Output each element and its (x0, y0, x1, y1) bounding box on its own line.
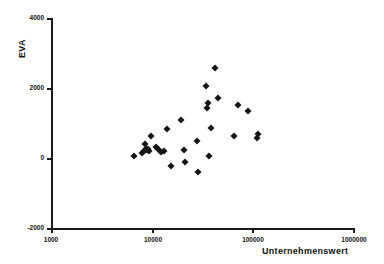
x-tick-label-1000000: 1000000 (334, 236, 374, 243)
data-point (181, 147, 188, 154)
data-point (147, 132, 154, 139)
x-axis-label: Unternehmenswert (262, 246, 348, 256)
plot-area (51, 18, 353, 228)
data-point (177, 117, 184, 124)
y-tick-label-4000: 4000 (20, 14, 44, 21)
scatter-chart: 4000 2000 0 -2000 1000 10000 100000 1000… (0, 0, 384, 264)
data-point (215, 95, 222, 102)
data-point (163, 125, 170, 132)
data-point (207, 124, 214, 131)
data-point (212, 65, 219, 72)
y-tick-label-0: 0 (20, 154, 44, 161)
x-tick-mark (353, 228, 355, 233)
data-point (194, 138, 201, 145)
x-axis-line (51, 228, 354, 230)
data-point (195, 168, 202, 175)
x-tick-label-100000: 100000 (233, 236, 273, 243)
x-tick-mark (152, 228, 154, 233)
data-point (182, 158, 189, 165)
x-tick-label-1000: 1000 (31, 236, 71, 243)
data-point (202, 82, 209, 89)
data-point (167, 163, 174, 170)
data-point (234, 101, 241, 108)
data-point (205, 152, 212, 159)
x-tick-label-10000: 10000 (133, 236, 173, 243)
data-point (231, 133, 238, 140)
x-tick-mark (51, 228, 53, 233)
x-tick-mark (252, 228, 254, 233)
y-axis-label: EVA (17, 39, 27, 58)
y-tick-label--2000: -2000 (18, 224, 44, 231)
y-tick-label-2000: 2000 (20, 84, 44, 91)
data-point (244, 108, 251, 115)
data-point (130, 152, 137, 159)
